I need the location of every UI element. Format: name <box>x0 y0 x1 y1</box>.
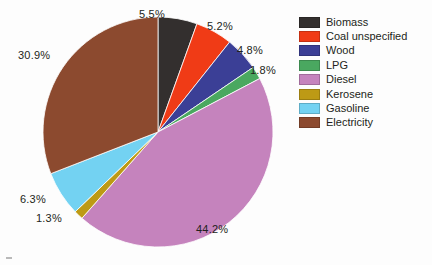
pie-label-biomass: 5.5% <box>139 8 165 20</box>
legend-swatch-icon <box>299 31 320 42</box>
legend-swatch-icon <box>299 17 320 28</box>
pie-chart-screenshot: 5.5% 5.2% 4.8% 1.8% 44.2% 1.3% 6.3% 30.9… <box>0 0 432 265</box>
legend-item-biomass[interactable]: Biomass <box>299 15 429 29</box>
legend-item-lpg[interactable]: LPG <box>299 58 429 72</box>
legend-item-label: Electricity <box>326 117 373 128</box>
legend-item-coal-unspecified[interactable]: Coal unspecified <box>299 29 429 43</box>
legend-item-gasoline[interactable]: Gasoline <box>299 101 429 115</box>
legend-item-electricity[interactable]: Electricity <box>299 116 429 130</box>
pie-label-lpg: 1.8% <box>250 64 276 76</box>
legend-swatch-icon <box>299 74 320 85</box>
legend-item-label: Wood <box>326 45 355 56</box>
pie-label-diesel: 44.2% <box>196 223 228 235</box>
legend-swatch-icon <box>299 117 320 128</box>
legend-item-label: Diesel <box>326 74 357 85</box>
pie-label-gasoline: 6.3% <box>20 193 46 205</box>
legend-item-label: Gasoline <box>326 103 369 114</box>
legend-swatch-icon <box>299 103 320 114</box>
legend-item-label: Coal unspecified <box>326 31 407 42</box>
legend-swatch-icon <box>299 45 320 56</box>
pie-label-electricity: 30.9% <box>18 49 50 61</box>
pie-label-kerosene: 1.3% <box>36 212 62 224</box>
legend-item-label: LPG <box>326 60 348 71</box>
scan-artifact <box>6 257 12 259</box>
chart-legend: BiomassCoal unspecifiedWoodLPGDieselKero… <box>299 15 429 130</box>
legend-item-diesel[interactable]: Diesel <box>299 73 429 87</box>
legend-item-wood[interactable]: Wood <box>299 44 429 58</box>
pie-label-coal: 5.2% <box>207 20 233 32</box>
legend-swatch-icon <box>299 60 320 71</box>
legend-item-kerosene[interactable]: Kerosene <box>299 87 429 101</box>
legend-swatch-icon <box>299 89 320 100</box>
pie-label-wood: 4.8% <box>237 44 263 56</box>
legend-item-label: Biomass <box>326 17 368 28</box>
legend-item-label: Kerosene <box>326 89 373 100</box>
